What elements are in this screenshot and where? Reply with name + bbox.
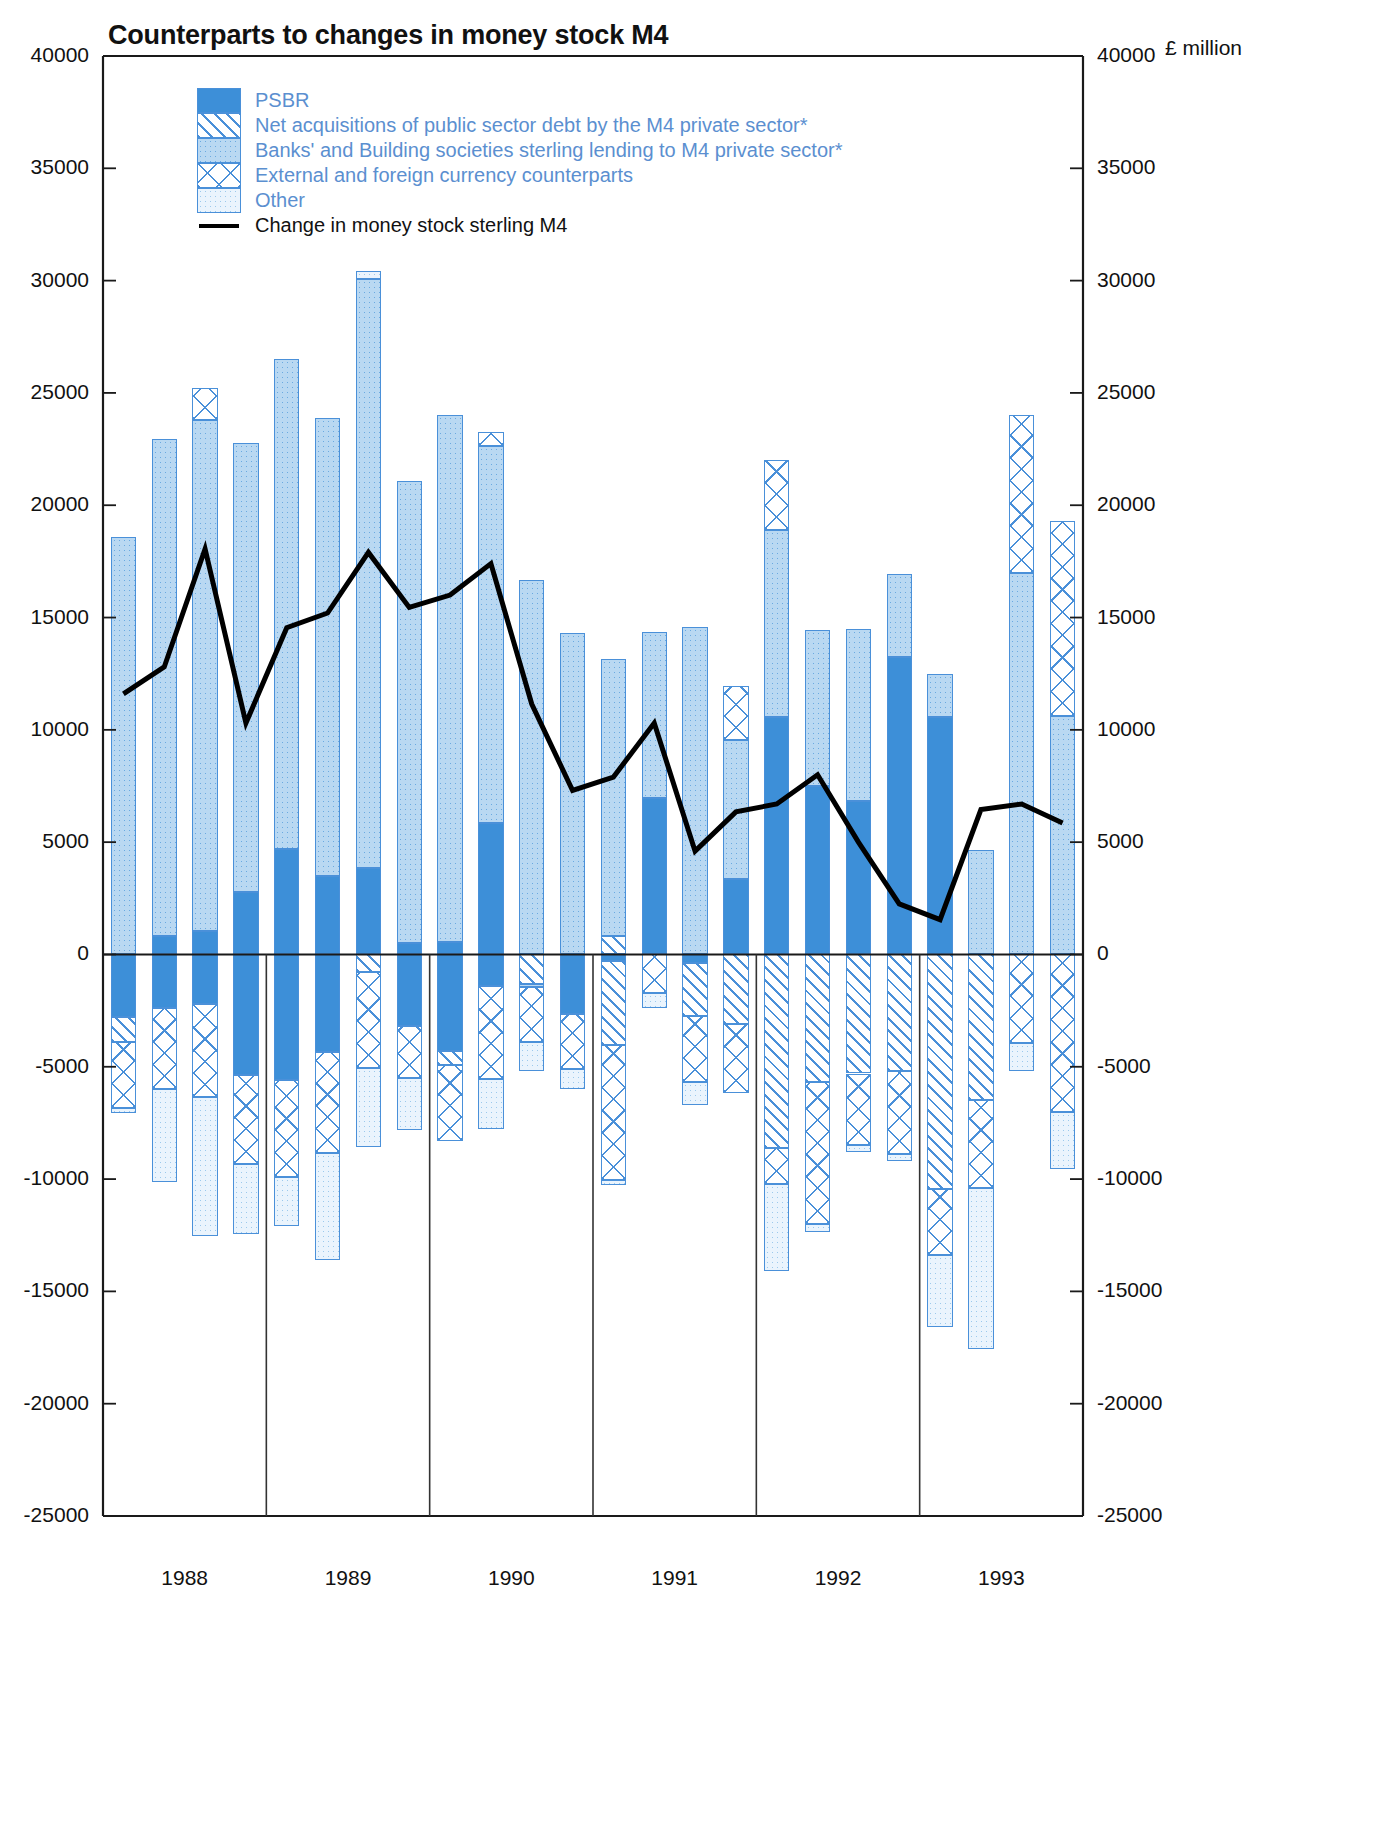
m4-change-line	[0, 0, 1385, 1834]
m4-change-polyline	[123, 549, 1062, 920]
chart-root: Counterparts to changes in money stock M…	[0, 0, 1385, 1834]
